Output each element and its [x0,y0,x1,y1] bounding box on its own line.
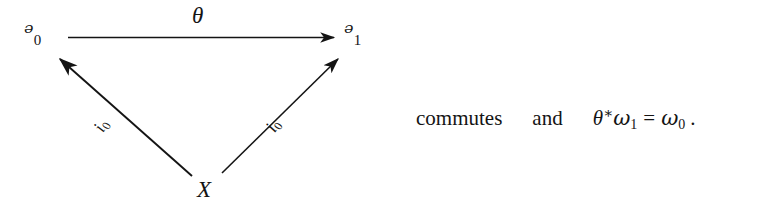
equation-omega-left-subscript: 1 [630,117,637,132]
node-u1-subscript: 1 [354,32,362,48]
prose-conjunction: and [532,106,562,131]
node-u1: ᵊ1 [344,20,361,48]
commutative-diagram: ᵊ0 ᵊ1 X θ i0 i0 [0,0,400,211]
node-x-base: X [197,177,211,202]
arrow-i0-left [60,59,192,176]
node-u0-subscript: 0 [34,32,42,48]
equation-period: . [690,106,695,130]
equation-omega-right: ω [661,106,678,130]
equation-equals-sign: = [643,106,655,130]
equation-omega-left: ω [613,106,630,130]
equation-theta: θ [593,106,603,130]
figure-canvas: ᵊ0 ᵊ1 X θ i0 i0 commutes and θ∗ω1=ω0. [0,0,779,211]
node-x: X [197,178,211,201]
edge-label-theta-text: θ [192,3,203,28]
prose-statement: commutes and θ∗ω1=ω0. [416,104,696,133]
equation-pullback-star: ∗ [603,105,613,121]
edge-label-theta: θ [192,4,203,27]
node-u1-base: ᵊ [344,18,354,47]
equation-omega-right-subscript: 0 [678,117,685,132]
arrow-i0-right [222,59,338,173]
node-u0-base: ᵊ [24,18,34,47]
node-u0: ᵊ0 [24,20,41,48]
prose-commutes: commutes [416,106,502,131]
pullback-equation: θ∗ω1=ω0. [593,104,696,133]
